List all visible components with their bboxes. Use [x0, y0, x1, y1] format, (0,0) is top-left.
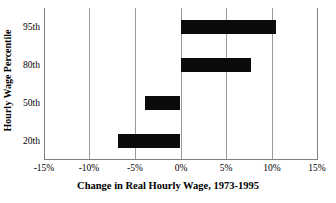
axis-right-spine — [317, 8, 318, 160]
y-tick-label-20th: 20th — [12, 136, 40, 146]
bar-95th — [181, 20, 277, 34]
x-tick-label-minus15: -15% — [20, 163, 68, 174]
bar-20th — [118, 134, 181, 148]
x-tick-label-plus5: 5% — [202, 163, 250, 174]
axis-left-spine — [44, 8, 45, 160]
plot-area — [44, 8, 318, 160]
x-tick-label-plus15: 15% — [293, 163, 336, 174]
x-axis-tick-labels: -15% -10% -5% 0% 5% 10% 15% — [44, 163, 318, 177]
y-axis-tick-labels: 95th 80th 50th 20th — [14, 8, 42, 160]
x-tick-label-plus10: 10% — [248, 163, 296, 174]
y-tick-label-80th: 80th — [12, 60, 40, 70]
y-tick-label-50th: 50th — [12, 98, 40, 108]
x-axis-title: Change in Real Hourly Wage, 1973-1995 — [0, 180, 336, 191]
bar-80th — [181, 58, 252, 72]
y-tick-label-95th: 95th — [12, 22, 40, 32]
y-axis-title-text: Hourly Wage Percentile — [3, 29, 14, 131]
chart-figure: Hourly Wage Percentile 95th 80th 50th 20… — [0, 0, 336, 203]
x-tick-label-zero: 0% — [157, 163, 205, 174]
x-tick-label-minus5: -5% — [111, 163, 159, 174]
bar-50th — [145, 96, 180, 110]
axis-bottom-spine — [44, 159, 318, 160]
gridline-minus10 — [89, 8, 90, 160]
x-tick-label-minus10: -10% — [65, 163, 113, 174]
